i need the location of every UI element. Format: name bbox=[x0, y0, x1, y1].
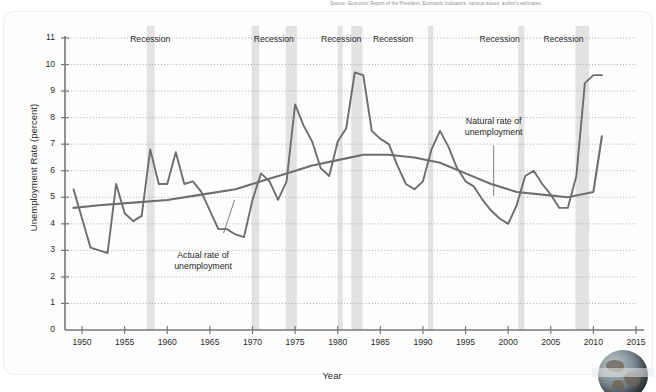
recession-band bbox=[428, 26, 433, 330]
recession-band bbox=[351, 26, 362, 330]
x-tick-label: 1965 bbox=[190, 337, 230, 347]
y-tick-label: 0 bbox=[33, 324, 55, 334]
leader-line-actual bbox=[224, 200, 235, 233]
annotation-actual-rate: Actual rate of unemployment bbox=[138, 250, 268, 272]
y-tick-label: 1 bbox=[33, 297, 55, 307]
y-tick-label: 10 bbox=[33, 59, 55, 69]
recession-band bbox=[518, 26, 524, 330]
recession-label: Recession bbox=[524, 34, 604, 44]
x-tick-label: 1950 bbox=[62, 337, 102, 347]
globe-banner bbox=[592, 368, 654, 377]
x-tick-label: 1995 bbox=[446, 337, 486, 347]
x-tick-label: 2015 bbox=[616, 337, 656, 347]
annotation-actual-line1: Actual rate of bbox=[177, 250, 229, 260]
x-tick-label: 1960 bbox=[147, 337, 187, 347]
y-axis-title: Unemployment Rate (percent) bbox=[28, 83, 39, 253]
x-tick-label: 1980 bbox=[318, 337, 358, 347]
annotation-natural-line1: Natural rate of bbox=[466, 116, 522, 126]
annotation-natural-line2: unemployment bbox=[465, 127, 523, 137]
recession-label: Recession bbox=[110, 34, 190, 44]
globe-icon bbox=[592, 348, 654, 392]
recession-label: Recession bbox=[353, 34, 433, 44]
recession-band bbox=[575, 26, 589, 330]
x-tick-label: 1985 bbox=[360, 337, 400, 347]
x-tick-label: 2000 bbox=[488, 337, 528, 347]
recession-band bbox=[252, 26, 260, 330]
x-tick-label: 2010 bbox=[573, 337, 613, 347]
globe-landmass bbox=[612, 380, 624, 390]
annotation-actual-line2: unemployment bbox=[174, 261, 232, 271]
x-tick-label: 1975 bbox=[275, 337, 315, 347]
recession-band bbox=[147, 26, 155, 330]
x-tick-label: 2005 bbox=[531, 337, 571, 347]
x-axis-title: Year bbox=[4, 370, 656, 381]
x-tick-label: 1970 bbox=[232, 337, 272, 347]
y-tick-label: 2 bbox=[33, 271, 55, 281]
y-tick-label: 11 bbox=[33, 32, 55, 42]
annotation-natural-rate: Natural rate of unemployment bbox=[429, 116, 559, 138]
figure-card: 01234567891011 1950195519601965197019751… bbox=[4, 12, 652, 374]
source-note: Source: Economic Report of the President… bbox=[330, 0, 650, 8]
x-tick-label: 1990 bbox=[403, 337, 443, 347]
unemployment-line-chart bbox=[4, 12, 652, 374]
recession-band bbox=[338, 26, 343, 330]
recession-bands bbox=[147, 26, 589, 330]
x-tick-label: 1955 bbox=[105, 337, 145, 347]
